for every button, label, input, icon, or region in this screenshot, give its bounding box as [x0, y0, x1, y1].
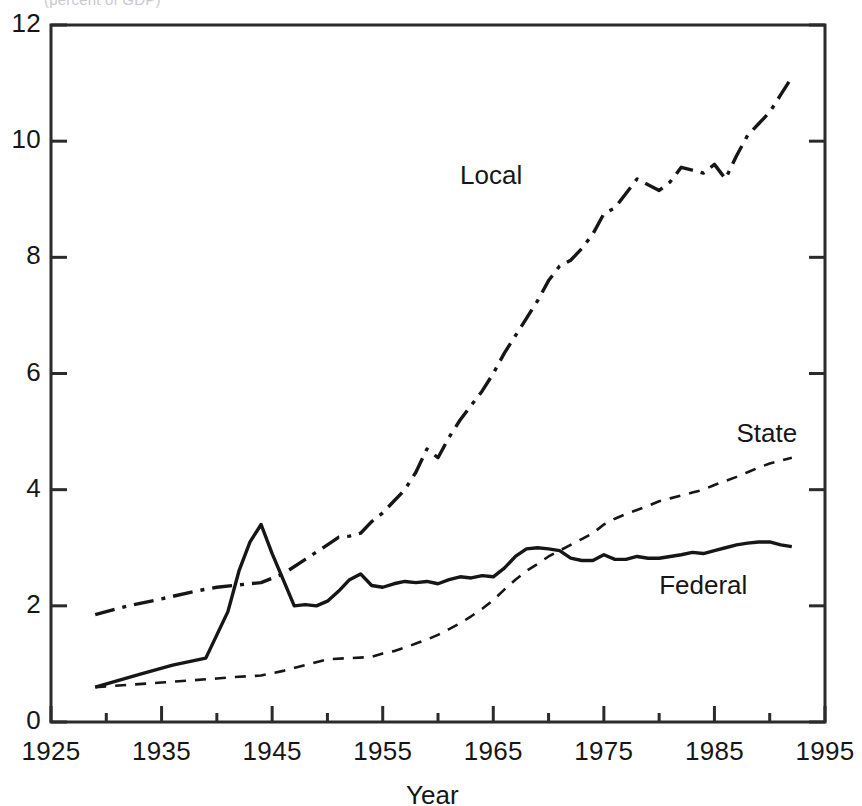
y-tick-label: 0 — [0, 705, 41, 736]
chart-figure: (percent of GDP) 024681012 1925193519451… — [0, 0, 862, 806]
plot-canvas — [0, 0, 862, 806]
y-tick-label: 8 — [0, 240, 41, 271]
x-tick-label: 1995 — [780, 736, 862, 767]
y-tick-label: 2 — [0, 589, 41, 620]
y-tick-label: 6 — [0, 357, 41, 388]
x-tick-label: 1965 — [448, 736, 538, 767]
series-label-local: Local — [460, 160, 522, 191]
series-label-state: State — [737, 418, 798, 449]
y-tick-label: 12 — [0, 8, 41, 39]
plot-frame — [51, 25, 825, 722]
x-axis-title: Year — [406, 780, 459, 806]
x-tick-label: 1945 — [227, 736, 317, 767]
series-label-federal: Federal — [659, 570, 747, 601]
y-tick-label: 4 — [0, 473, 41, 504]
x-tick-label: 1975 — [559, 736, 649, 767]
x-tick-label: 1935 — [117, 736, 207, 767]
y-tick-label: 10 — [0, 124, 41, 155]
x-tick-label: 1955 — [338, 736, 428, 767]
x-tick-label: 1985 — [669, 736, 759, 767]
axis-ticks — [51, 25, 825, 722]
x-tick-label: 1925 — [6, 736, 96, 767]
